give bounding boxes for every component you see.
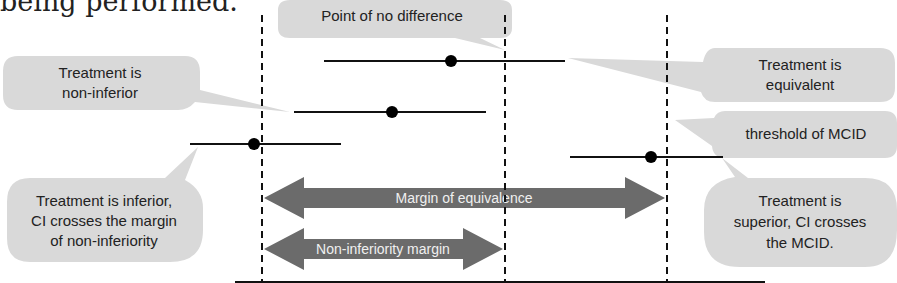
callout-superior: Treatment is superior, CI crosses the MC… (704, 158, 897, 267)
callout-non-inferior: Treatment is non-inferior (3, 56, 290, 112)
ci-inferior (190, 138, 341, 150)
callout-line: the MCID. (766, 234, 834, 251)
callout-line: Treatment is (759, 56, 842, 73)
callout-line: Treatment is inferior, (36, 192, 172, 209)
ci-non-inferior (294, 106, 486, 118)
arrow-non-inferiority-margin: Non-inferiority margin (264, 228, 503, 270)
callout-equivalent: Treatment is equivalent (568, 48, 895, 102)
arrow-label: Non-inferiority margin (316, 241, 450, 257)
callout-line: CI crosses the margin (31, 212, 177, 229)
callout-inferior: Treatment is inferior, CI crosses the ma… (7, 147, 203, 262)
callout-text: threshold of MCID (746, 125, 867, 142)
callout-line: non-inferior (62, 84, 138, 101)
arrow-margin-of-equivalence: Margin of equivalence (264, 177, 665, 219)
ci-equivalent (324, 55, 565, 67)
callout-line: equivalent (766, 76, 835, 93)
callout-text: Point of no difference (321, 7, 463, 24)
callout-line: superior, CI crosses (734, 213, 867, 230)
arrow-label: Margin of equivalence (396, 190, 533, 206)
callout-point-of-no-difference: Point of no difference (278, 0, 512, 50)
callout-line: of non-inferiority (50, 232, 158, 249)
callout-line: Treatment is (759, 192, 842, 209)
callout-line: Treatment is (59, 64, 142, 81)
callout-threshold-mcid: threshold of MCID (675, 111, 897, 158)
equivalence-diagram: being performed. Point of no difference … (0, 0, 897, 283)
ci-superior (570, 151, 723, 163)
